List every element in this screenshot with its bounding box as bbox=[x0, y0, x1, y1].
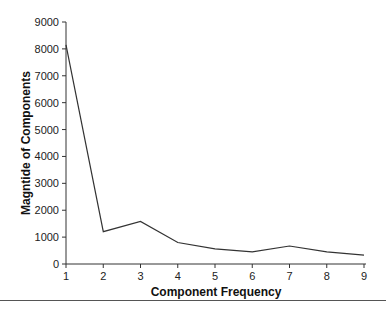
y-tick-label: 0 bbox=[53, 258, 59, 270]
x-tick-label: 7 bbox=[286, 270, 292, 282]
y-tick-label: 9000 bbox=[35, 16, 59, 28]
y-axis-title: Magntide of Components bbox=[19, 71, 33, 215]
y-axis-ticks: 0100020003000400050006000700080009000 bbox=[35, 16, 66, 270]
x-tick-label: 5 bbox=[212, 270, 218, 282]
data-line bbox=[66, 45, 364, 255]
x-tick-label: 8 bbox=[324, 270, 330, 282]
x-axis-ticks: 123456789 bbox=[63, 264, 367, 282]
y-tick-label: 4000 bbox=[35, 150, 59, 162]
x-tick-label: 1 bbox=[63, 270, 69, 282]
x-axis-title: Component Frequency bbox=[151, 285, 282, 299]
x-tick-label: 3 bbox=[137, 270, 143, 282]
bottom-divider bbox=[0, 300, 386, 301]
line-chart: 0100020003000400050006000700080009000 12… bbox=[0, 0, 386, 300]
y-tick-label: 2000 bbox=[35, 204, 59, 216]
y-tick-label: 3000 bbox=[35, 177, 59, 189]
x-tick-label: 2 bbox=[100, 270, 106, 282]
x-tick-label: 4 bbox=[175, 270, 181, 282]
y-tick-label: 6000 bbox=[35, 97, 59, 109]
x-tick-label: 6 bbox=[249, 270, 255, 282]
y-tick-label: 7000 bbox=[35, 70, 59, 82]
x-tick-label: 9 bbox=[361, 270, 367, 282]
y-tick-label: 1000 bbox=[35, 231, 59, 243]
y-tick-label: 8000 bbox=[35, 43, 59, 55]
y-tick-label: 5000 bbox=[35, 124, 59, 136]
